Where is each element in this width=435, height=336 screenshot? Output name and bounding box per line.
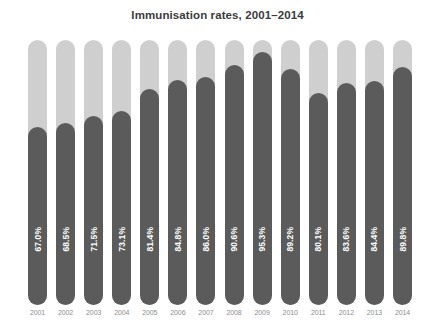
bar-group[interactable]: 71.5% bbox=[84, 40, 103, 305]
plot-area: 67.0%68.5%71.5%73.1%81.4%84.8%86.0%90.6%… bbox=[28, 40, 412, 305]
x-axis-tick-label: 2002 bbox=[56, 309, 75, 316]
bar-group[interactable]: 90.6% bbox=[225, 40, 244, 305]
x-axis-tick-label: 2014 bbox=[393, 309, 412, 316]
x-axis-tick-label: 2010 bbox=[281, 309, 300, 316]
x-axis-tick-label: 2013 bbox=[365, 309, 384, 316]
bar-value-label: 89.2% bbox=[286, 226, 295, 251]
bar-value-label: 90.6% bbox=[230, 226, 239, 251]
bar-group[interactable]: 84.8% bbox=[168, 40, 187, 305]
bar-fill bbox=[112, 111, 131, 305]
bar-fill bbox=[28, 127, 47, 305]
bar-value-label: 67.0% bbox=[33, 226, 42, 251]
x-axis-tick-label: 2009 bbox=[253, 309, 272, 316]
bar-group[interactable]: 67.0% bbox=[28, 40, 47, 305]
bar-group[interactable]: 84.4% bbox=[365, 40, 384, 305]
bar-fill bbox=[225, 65, 244, 305]
chart-title: Immunisation rates, 2001–2014 bbox=[0, 9, 435, 21]
bar-fill bbox=[84, 116, 103, 305]
bar-fill bbox=[309, 93, 328, 305]
bar-value-label: 73.1% bbox=[117, 226, 126, 251]
bar-group[interactable]: 73.1% bbox=[112, 40, 131, 305]
x-axis-tick-label: 2011 bbox=[309, 309, 328, 316]
x-axis-tick-label: 2001 bbox=[28, 309, 47, 316]
bar-fill bbox=[281, 69, 300, 305]
bar-group[interactable]: 89.8% bbox=[393, 40, 412, 305]
bar-group[interactable]: 83.6% bbox=[337, 40, 356, 305]
bar-group[interactable]: 80.1% bbox=[309, 40, 328, 305]
bar-value-label: 71.5% bbox=[89, 226, 98, 251]
bar-value-label: 84.4% bbox=[370, 226, 379, 251]
bar-value-label: 95.3% bbox=[258, 226, 267, 251]
x-axis-tick-label: 2004 bbox=[112, 309, 131, 316]
x-axis-tick-label: 2008 bbox=[225, 309, 244, 316]
bar-value-label: 68.5% bbox=[61, 226, 70, 251]
bar-value-label: 81.4% bbox=[146, 226, 155, 251]
bar-fill bbox=[196, 77, 215, 305]
bar-fill bbox=[140, 89, 159, 305]
bar-value-label: 89.8% bbox=[398, 226, 407, 251]
chart-container: Immunisation rates, 2001–2014 67.0%68.5%… bbox=[0, 0, 435, 336]
bar-value-label: 83.6% bbox=[342, 226, 351, 251]
x-axis-tick-label: 2006 bbox=[168, 309, 187, 316]
bar-group[interactable]: 68.5% bbox=[56, 40, 75, 305]
bar-group[interactable]: 81.4% bbox=[140, 40, 159, 305]
bar-fill bbox=[365, 81, 384, 305]
bar-fill bbox=[56, 123, 75, 305]
bar-fill bbox=[168, 80, 187, 305]
bar-fill bbox=[337, 83, 356, 305]
x-axis-tick-label: 2005 bbox=[140, 309, 159, 316]
bar-value-label: 80.1% bbox=[314, 226, 323, 251]
bar-group[interactable]: 86.0% bbox=[196, 40, 215, 305]
x-axis-tick-label: 2007 bbox=[196, 309, 215, 316]
x-axis: 2001200220032004200520062007200820092010… bbox=[28, 309, 412, 325]
bar-group[interactable]: 89.2% bbox=[281, 40, 300, 305]
bar-fill bbox=[253, 52, 272, 305]
bar-fill bbox=[393, 67, 412, 305]
bar-value-label: 84.8% bbox=[174, 226, 183, 251]
x-axis-tick-label: 2003 bbox=[84, 309, 103, 316]
bar-group[interactable]: 95.3% bbox=[253, 40, 272, 305]
x-axis-tick-label: 2012 bbox=[337, 309, 356, 316]
bar-value-label: 86.0% bbox=[202, 226, 211, 251]
